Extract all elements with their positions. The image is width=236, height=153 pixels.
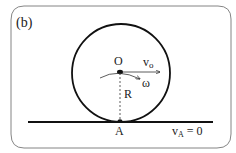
radius-label: R	[124, 87, 132, 101]
contact-point	[118, 119, 123, 123]
panel-label: (b)	[16, 15, 33, 31]
contact-label: A	[115, 124, 124, 138]
contact-velocity-label: vA = 0	[172, 124, 203, 139]
rolling-wheel-diagram: (b) O vo ω R A vA = 0	[0, 0, 236, 153]
center-label: O	[114, 54, 123, 68]
velocity-label: vo	[143, 55, 154, 70]
omega-label: ω	[142, 76, 150, 90]
